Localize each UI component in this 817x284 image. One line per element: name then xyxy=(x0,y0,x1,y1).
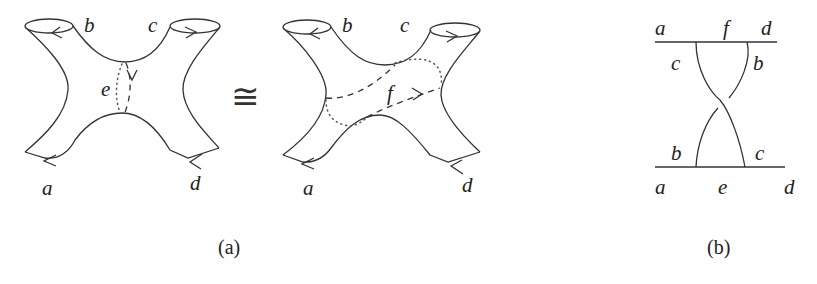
label-a: a xyxy=(42,176,53,200)
label-c: c xyxy=(400,13,410,37)
label-d: d xyxy=(190,171,201,195)
label-bottom-d: d xyxy=(784,175,795,199)
label-bottom-a: a xyxy=(655,175,666,199)
label-c: c xyxy=(148,13,158,37)
strand-over xyxy=(696,42,745,167)
orientation-arrow-e xyxy=(127,70,137,80)
label-strand-b-bottom: b xyxy=(671,141,682,165)
strand-under-upper xyxy=(729,42,748,98)
curve-f-hidden-2 xyxy=(326,100,367,126)
label-b: b xyxy=(84,13,95,37)
label-top-f: f xyxy=(723,16,732,40)
label-strand-c-bottom: c xyxy=(755,141,765,165)
curve-f-front-1 xyxy=(326,65,395,98)
congruence-symbol: ≅ xyxy=(231,76,260,116)
orientation-arrow-d xyxy=(451,160,463,174)
pants-surface-right xyxy=(283,20,480,174)
orientation-arrow-a xyxy=(44,155,56,166)
orientation-arrow-a xyxy=(302,158,314,169)
label-strand-c-top: c xyxy=(671,51,681,75)
orientation-arrow-f xyxy=(412,88,422,100)
label-bottom-e: e xyxy=(718,175,727,199)
label-d: d xyxy=(462,173,473,197)
label-e: e xyxy=(101,77,110,101)
caption-a: (a) xyxy=(218,236,240,259)
label-top-d: d xyxy=(761,16,772,40)
boundary-circle-b xyxy=(25,19,73,33)
pants-surface-left xyxy=(25,19,220,169)
label-top-a: a xyxy=(655,16,666,40)
boundary-circle-b xyxy=(283,20,331,34)
label-f: f xyxy=(387,81,396,105)
neck-curve-e-hidden xyxy=(116,64,122,112)
label-a: a xyxy=(303,176,314,200)
label-b: b xyxy=(342,13,353,37)
caption-b: (b) xyxy=(707,236,730,259)
curve-f-front-2 xyxy=(367,88,440,117)
curve-f-hidden-1 xyxy=(395,59,441,86)
label-strand-b-top: b xyxy=(753,51,764,75)
strand-under-lower xyxy=(696,108,718,167)
